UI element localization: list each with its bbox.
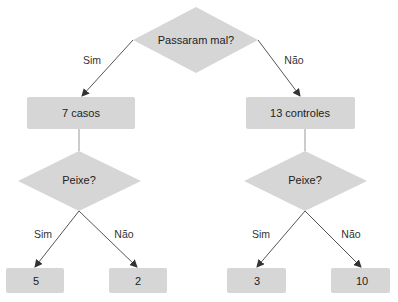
leaf-node: 2: [109, 268, 167, 293]
decision-node-peixe-left: Peixe?: [18, 151, 141, 211]
peixe-left-sim-label: Sim: [34, 228, 52, 240]
leaf-label: 5: [33, 275, 39, 287]
leaf-node: 5: [6, 268, 64, 293]
node-controles-label: 13 controles: [270, 107, 330, 119]
root-label: Passaram mal?: [158, 34, 234, 46]
node-casos: 7 casos: [27, 97, 135, 129]
peixe-left-label: Peixe?: [62, 174, 96, 186]
peixe-right-nao-label: Não: [341, 228, 360, 240]
peixe-right-sim-label: Sim: [252, 228, 270, 240]
leaf-label: 3: [254, 275, 260, 287]
root-decision-node: Passaram mal?: [133, 7, 258, 73]
root-edge-left-label: Sim: [83, 54, 101, 66]
node-controles: 13 controles: [246, 97, 355, 129]
edge-root-right: [258, 40, 300, 96]
root-edge-right-label: Não: [284, 54, 303, 66]
node-casos-label: 7 casos: [62, 107, 100, 119]
leaf-node: 10: [331, 268, 390, 293]
decision-tree-diagram: Passaram mal? Sim Não 7 casos 13 control…: [0, 0, 398, 302]
decision-node-peixe-right: Peixe?: [244, 151, 367, 211]
leaf-label: 2: [135, 275, 141, 287]
leaf-label: 10: [356, 275, 368, 287]
leaf-node: 3: [227, 268, 286, 293]
edge-root-left: [82, 40, 133, 96]
peixe-left-nao-label: Não: [114, 228, 133, 240]
peixe-right-label: Peixe?: [288, 174, 322, 186]
